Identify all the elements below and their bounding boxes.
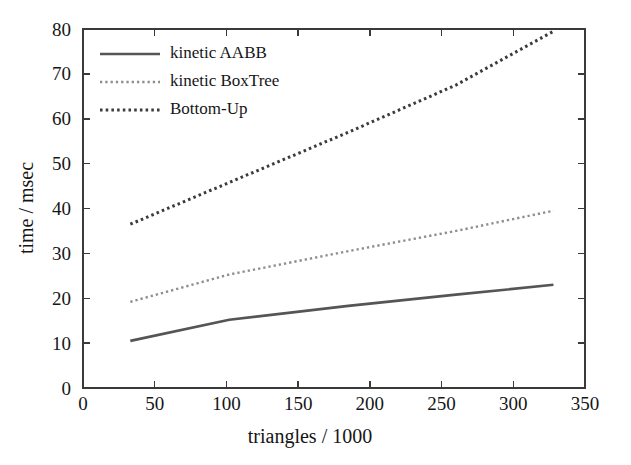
y-tick-label: 50 [52,153,71,174]
x-tick-label: 0 [78,393,88,414]
legend-label-kinetic-boxtree: kinetic BoxTree [170,71,279,90]
y-tick-label: 40 [52,198,71,219]
y-tick-label: 20 [52,288,71,309]
x-tick-label: 200 [356,393,385,414]
series-line-kinetic-aabb [130,285,553,341]
y-tick-label: 80 [52,19,71,40]
y-tick-label: 70 [52,63,71,84]
legend-label-kinetic-aabb: kinetic AABB [170,43,267,62]
y-tick-label: 0 [62,378,72,399]
x-tick-label: 50 [145,393,164,414]
x-tick-label: 250 [427,393,456,414]
x-axis-title: triangles / 1000 [248,425,372,448]
y-axis-tick-labels: 01020304050607080 [52,19,71,399]
x-tick-label: 150 [284,393,313,414]
y-axis-title: time / msec [15,162,37,254]
x-axis-tick-labels: 050100150200250300350 [78,393,599,414]
y-tick-label: 30 [52,243,71,264]
legend-label-bottom-up: Bottom-Up [170,99,247,118]
x-tick-label: 300 [499,393,528,414]
x-tick-label: 100 [212,393,241,414]
chart-legend: kinetic AABBkinetic BoxTreeBottom-Up [100,43,279,118]
y-tick-label: 60 [52,108,71,129]
series-line-kinetic-boxtree [130,211,553,302]
chart-figure: 050100150200250300350 01020304050607080 … [0,0,631,465]
y-tick-label: 10 [52,333,71,354]
line-chart: 050100150200250300350 01020304050607080 … [0,0,631,465]
x-tick-label: 350 [571,393,600,414]
